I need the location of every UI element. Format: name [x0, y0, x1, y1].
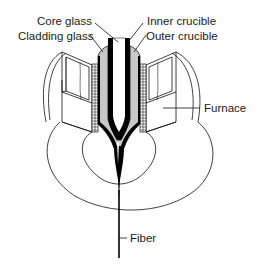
- label-cladding-glass: Cladding glass: [18, 30, 94, 42]
- label-fiber: Fiber: [130, 232, 156, 244]
- label-outer-crucible: Outer crucible: [146, 30, 218, 42]
- outer-crucible: [98, 46, 140, 160]
- inner-crucible: [108, 38, 130, 140]
- heater-coil-left: [92, 64, 98, 132]
- heater-coil-right: [140, 64, 146, 132]
- double-crucible-diagram: Core glass Cladding glass Inner crucible…: [0, 0, 259, 265]
- label-inner-crucible: Inner crucible: [147, 15, 216, 27]
- label-furnace: Furnace: [204, 102, 246, 114]
- label-core-glass: Core glass: [37, 15, 92, 27]
